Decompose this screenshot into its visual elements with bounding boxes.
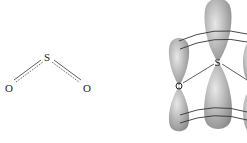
oxygen-p-orbital-bottom [169, 86, 189, 131]
sulfur-atom-label: S [44, 51, 50, 63]
bond-left [14, 60, 43, 82]
so2-diagram: S O O S [0, 0, 247, 143]
oxygen-right-label: O [83, 82, 91, 94]
sulfur-nucleus-label: S [215, 56, 221, 68]
bond-right [52, 60, 81, 82]
oxygen-p-orbital-top [169, 38, 189, 86]
oxygen-left-label: O [5, 82, 13, 94]
orbital-diagram: S [169, 0, 247, 134]
sulfur-p-orbital-bottom [204, 62, 232, 129]
lewis-structure: S O O [5, 51, 91, 94]
